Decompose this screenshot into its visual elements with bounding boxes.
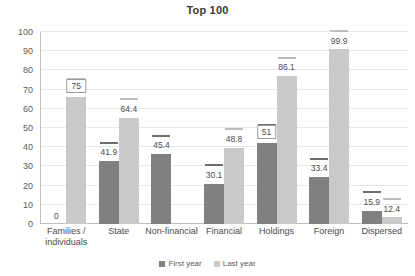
bar-marker-last-year (120, 98, 138, 100)
legend-label: First year (168, 259, 201, 268)
category-label-line: Dispersed (355, 226, 408, 237)
chart-legend: First yearLast year (0, 259, 415, 268)
y-tick-label-70: 70 (23, 85, 33, 95)
y-tick-label-20: 20 (23, 181, 33, 191)
y-axis-tick-labels: 1009080706050403020100 (0, 32, 38, 224)
bar-value-label: 41.9 (101, 148, 118, 157)
category-label-line: Foreign (303, 226, 356, 237)
bar-value-label: 64.4 (121, 105, 138, 114)
y-tick-label-40: 40 (23, 142, 33, 152)
bar-value-label: 45.4 (153, 141, 170, 150)
bar-first-year[interactable] (99, 161, 119, 224)
bar-groups: 07541.964.445.430.148.85186.133.499.915.… (40, 32, 408, 224)
bar-value-label: 33.4 (311, 164, 328, 173)
y-tick-label-30: 30 (23, 161, 33, 171)
bar-slot: 12.4 (382, 32, 402, 224)
bar-last-year[interactable] (277, 76, 297, 224)
bar-slot: 41.9 (99, 32, 119, 224)
bar-value-label: 51 (257, 125, 276, 140)
bar-marker-last-year (330, 30, 348, 32)
bar-group: 15.912.4 (355, 32, 408, 224)
y-tick-label-90: 90 (23, 46, 33, 56)
bar-slot: 86.1 (277, 32, 297, 224)
y-tick-label-0: 0 (28, 219, 33, 229)
bar-last-year[interactable] (382, 217, 402, 224)
category-label-line: State (93, 226, 146, 237)
bar-value-label: 15.9 (363, 198, 380, 207)
bar-value-label: 0 (54, 212, 59, 221)
legend-swatch-icon (214, 261, 220, 267)
category-label: Financial (198, 226, 251, 237)
bar-slot (171, 32, 191, 224)
bar-slot: 64.4 (119, 32, 139, 224)
bar-marker-first-year (205, 164, 223, 166)
bar-slot: 99.9 (329, 32, 349, 224)
bar-slot: 0 (46, 32, 66, 224)
category-label: Dispersed (355, 226, 408, 237)
y-tick-label-50: 50 (23, 123, 33, 133)
bar-marker-last-year (278, 57, 296, 59)
bar-value-label: 30.1 (206, 171, 223, 180)
legend-label: Last year (223, 259, 256, 268)
bar-marker-first-year (310, 158, 328, 160)
bar-slot: 45.4 (151, 32, 171, 224)
category-label: State (93, 226, 146, 237)
bar-value-label: 48.8 (226, 135, 243, 144)
x-axis-category-labels: Families /individualsStateNon-financialF… (40, 226, 408, 256)
bar-last-year[interactable] (119, 118, 139, 224)
category-label-line: Non-financial (145, 226, 198, 237)
bar-slot: 33.4 (309, 32, 329, 224)
bar-value-label: 99.9 (331, 37, 348, 46)
bar-slot: 15.9 (362, 32, 382, 224)
bar-marker-first-year (152, 135, 170, 137)
category-label-line: Families / (40, 226, 93, 237)
category-label: Foreign (303, 226, 356, 237)
bar-first-year[interactable] (257, 143, 277, 224)
bar-last-year[interactable] (224, 148, 244, 224)
category-label: Families /individuals (40, 226, 93, 248)
y-tick-label-60: 60 (23, 104, 33, 114)
bar-marker-first-year (363, 191, 381, 193)
category-label-line: Financial (198, 226, 251, 237)
bar-group: 30.148.8 (198, 32, 251, 224)
bar-slot: 48.8 (224, 32, 244, 224)
bar-value-label: 86.1 (278, 63, 295, 72)
category-label: Holdings (250, 226, 303, 237)
chart-title: Top 100 (0, 4, 415, 16)
legend-swatch-icon (159, 261, 165, 267)
bar-value-label: 12.4 (383, 205, 400, 214)
category-label-line: Holdings (250, 226, 303, 237)
bar-group: 5186.1 (250, 32, 303, 224)
bar-last-year[interactable] (66, 97, 86, 224)
chart-container: Top 100 1009080706050403020100 07541.964… (0, 0, 415, 276)
bar-marker-last-year (225, 128, 243, 130)
bar-slot: 51 (257, 32, 277, 224)
bar-slot: 75 (66, 32, 86, 224)
y-tick-label-10: 10 (23, 200, 33, 210)
bar-first-year[interactable] (151, 154, 171, 224)
y-tick-label-100: 100 (18, 27, 33, 37)
category-label: Non-financial (145, 226, 198, 237)
bar-marker-last-year (383, 198, 401, 200)
bar-group: 45.4 (145, 32, 198, 224)
y-tick-label-80: 80 (23, 65, 33, 75)
bar-last-year[interactable] (329, 49, 349, 224)
bar-first-year[interactable] (309, 177, 329, 224)
bar-slot: 30.1 (204, 32, 224, 224)
bar-group: 33.499.9 (303, 32, 356, 224)
plot-area: 07541.964.445.430.148.85186.133.499.915.… (40, 32, 408, 224)
bar-group: 41.964.4 (93, 32, 146, 224)
bar-first-year[interactable] (362, 211, 382, 224)
bar-first-year[interactable] (204, 184, 224, 225)
legend-item[interactable]: Last year (214, 259, 256, 268)
category-label-line: individuals (40, 237, 93, 248)
bar-marker-first-year (100, 142, 118, 144)
bar-value-label: 75 (67, 79, 86, 94)
legend-item[interactable]: First year (159, 259, 201, 268)
bar-group: 075 (40, 32, 93, 224)
